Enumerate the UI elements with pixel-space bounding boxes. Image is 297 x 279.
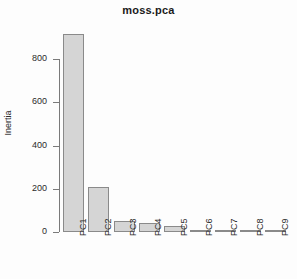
x-tick-label-pc3: PC3 [128, 218, 138, 236]
y-axis-label: Inertia [3, 103, 13, 143]
x-tick-label-pc7: PC7 [229, 218, 239, 236]
scree-plot-figure: moss.pca Inertia 0200400600800 PC1PC2PC3… [0, 0, 297, 279]
y-tick-label: 0 [7, 226, 47, 236]
y-axis-line [59, 59, 60, 232]
y-tick-label: 200 [7, 183, 47, 193]
y-tick-mark [53, 102, 59, 103]
y-tick-mark [53, 232, 59, 233]
x-tick-label-pc5: PC5 [179, 218, 189, 236]
x-tick-label-pc8: PC8 [255, 218, 265, 236]
bar-pc1 [63, 34, 84, 232]
y-tick-mark [53, 189, 59, 190]
y-tick-label: 400 [7, 140, 47, 150]
x-tick-label-pc9: PC9 [280, 218, 290, 236]
y-tick-mark [53, 59, 59, 60]
y-tick-label: 600 [7, 96, 47, 106]
chart-title: moss.pca [0, 4, 297, 16]
x-tick-label-pc6: PC6 [204, 218, 214, 236]
x-tick-label-pc4: PC4 [153, 218, 163, 236]
x-tick-label-pc1: PC1 [78, 218, 88, 236]
y-tick-label: 800 [7, 53, 47, 63]
y-tick-mark [53, 146, 59, 147]
bar-series [63, 28, 291, 232]
x-tick-label-pc2: PC2 [103, 218, 113, 236]
